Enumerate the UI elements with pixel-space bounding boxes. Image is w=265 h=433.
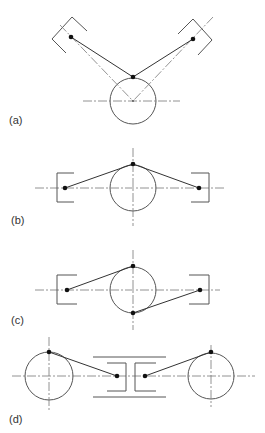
- mechanism-diagram: [0, 0, 265, 433]
- left-link: [67, 266, 133, 290]
- left-link: [71, 37, 133, 77]
- right-pivot-dot: [191, 37, 196, 42]
- left-top-contact-dot: [47, 350, 52, 355]
- left-link: [49, 352, 117, 376]
- right-top-contact-dot: [209, 350, 214, 355]
- top-contact-dot: [131, 75, 136, 80]
- left-pivot-dot: [69, 35, 74, 40]
- right-centerline: [133, 17, 213, 101]
- right-link: [133, 290, 200, 313]
- top-contact-dot: [131, 162, 136, 167]
- right-link: [145, 352, 211, 376]
- left-pivot-dot: [65, 288, 70, 293]
- panel-label-a: (a): [9, 114, 22, 126]
- panel-d: [12, 337, 255, 412]
- right-pivot-dot: [197, 186, 202, 191]
- panel-c: [35, 250, 220, 330]
- panel-label-d: (d): [9, 413, 22, 425]
- left-link: [65, 164, 133, 188]
- panel-b: [35, 148, 224, 226]
- left-inner-pivot-dot: [115, 374, 120, 379]
- panel-label-c: (c): [11, 314, 24, 326]
- panel-label-b: (b): [11, 214, 24, 226]
- right-link: [133, 164, 199, 188]
- right-inner-pivot-dot: [143, 374, 148, 379]
- panel-a: [52, 17, 213, 124]
- right-link: [133, 39, 193, 77]
- right-pivot-dot: [198, 288, 203, 293]
- top-contact-dot: [131, 264, 136, 269]
- left-pivot-dot: [63, 186, 68, 191]
- right-bearing-bracket: [178, 19, 212, 55]
- bottom-contact-dot: [131, 311, 136, 316]
- center-dot: [132, 100, 134, 102]
